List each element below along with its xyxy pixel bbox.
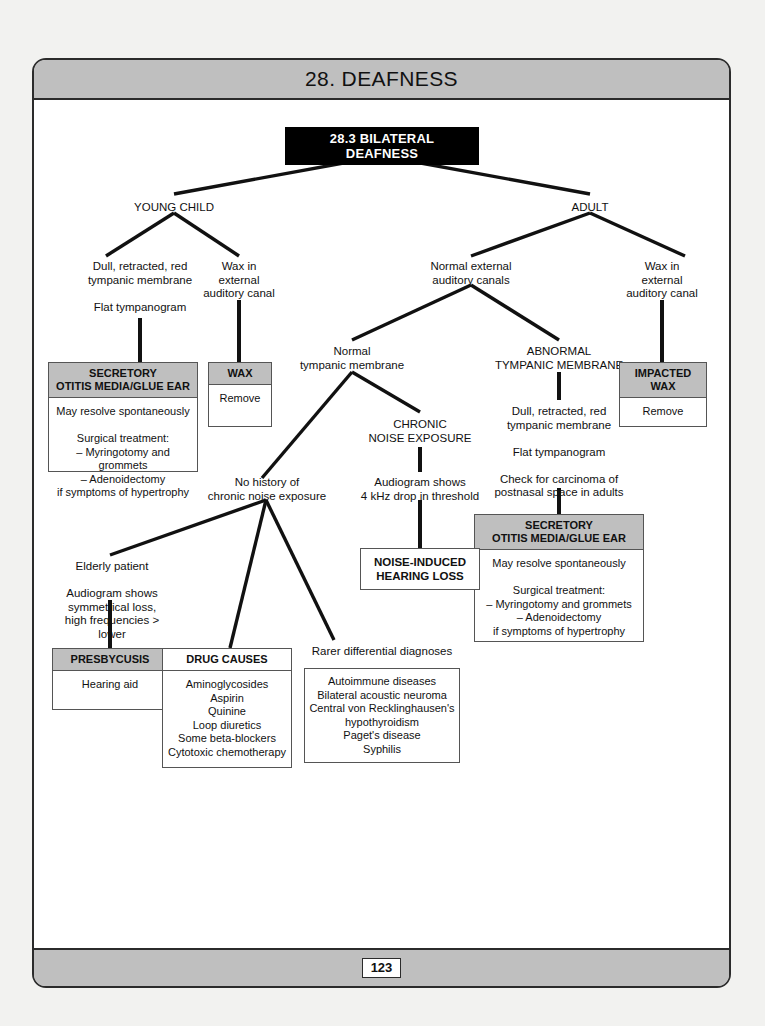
- node-adult: ADULT: [526, 201, 654, 215]
- node-normal-tympanic-membrane: Normal tympanic membrane: [288, 345, 416, 372]
- box-header: IMPACTED WAX: [620, 363, 706, 398]
- box-body: May resolve spontaneously Surgical treat…: [49, 398, 197, 507]
- node-rarer-label: Rarer differential diagnoses: [302, 645, 462, 659]
- box-header: DRUG CAUSES: [163, 649, 291, 671]
- box-header: WAX: [209, 363, 271, 385]
- page-frame: 28. DEAFNESS: [32, 58, 731, 988]
- node-wax-in-canal-adult: Wax in external auditory canal: [612, 260, 712, 301]
- box-header: PRESBYCUSIS: [53, 649, 167, 671]
- box-presbycusis[interactable]: PRESBYCUSIS Hearing aid: [52, 648, 168, 710]
- section-header-28-3: 28.3 BILATERAL DEAFNESS: [285, 127, 479, 165]
- box-drug-causes[interactable]: DRUG CAUSES Aminoglycosides Aspirin Quin…: [162, 648, 292, 768]
- node-chronic-noise-exposure: CHRONIC NOISE EXPOSURE: [360, 418, 480, 445]
- box-rarer-differential-diagnoses[interactable]: Autoimmune diseases Bilateral acoustic n…: [304, 668, 460, 763]
- node-abnormal-findings: Dull, retracted, red tympanic membrane F…: [489, 405, 629, 500]
- page-number: 123: [362, 958, 402, 978]
- box-body: Remove: [209, 385, 271, 413]
- node-audiogram-4khz: Audiogram shows 4 kHz drop in threshold: [348, 476, 492, 503]
- box-wax[interactable]: WAX Remove: [208, 362, 272, 427]
- box-body: Remove: [620, 398, 706, 426]
- box-secretory-otitis-media-adult[interactable]: SECRETORY OTITIS MEDIA/GLUE EAR May reso…: [474, 514, 644, 642]
- box-noise-induced-hearing-loss[interactable]: NOISE-INDUCED HEARING LOSS: [360, 548, 480, 590]
- page-title: 28. DEAFNESS: [305, 67, 458, 91]
- box-header: SECRETORY OTITIS MEDIA/GLUE EAR: [475, 515, 643, 550]
- node-normal-external-canals: Normal external auditory canals: [411, 260, 531, 287]
- flowchart-canvas: 28.3 BILATERAL DEAFNESS YOUNG CHILD ADUL…: [34, 100, 729, 988]
- node-no-history-noise: No history of chronic noise exposure: [202, 476, 332, 503]
- page-footer-bar: 123: [34, 948, 729, 986]
- box-secretory-otitis-media-child[interactable]: SECRETORY OTITIS MEDIA/GLUE EAR May reso…: [48, 362, 198, 472]
- node-young-child: YOUNG CHILD: [110, 201, 238, 215]
- node-elderly-patient: Elderly patient Audiogram shows symmetri…: [50, 560, 174, 641]
- box-body: May resolve spontaneously Surgical treat…: [475, 550, 643, 645]
- chapter-title-bar: 28. DEAFNESS: [34, 60, 729, 100]
- node-wax-in-canal-child: Wax in external auditory canal: [189, 260, 289, 301]
- node-abnormal-tympanic-membrane: ABNORMAL TYMPANIC MEMBRANE: [489, 345, 629, 372]
- box-impacted-wax[interactable]: IMPACTED WAX Remove: [619, 362, 707, 427]
- box-header: SECRETORY OTITIS MEDIA/GLUE EAR: [49, 363, 197, 398]
- box-body: Aminoglycosides Aspirin Quinine Loop diu…: [163, 671, 291, 766]
- box-body: Hearing aid: [53, 671, 167, 699]
